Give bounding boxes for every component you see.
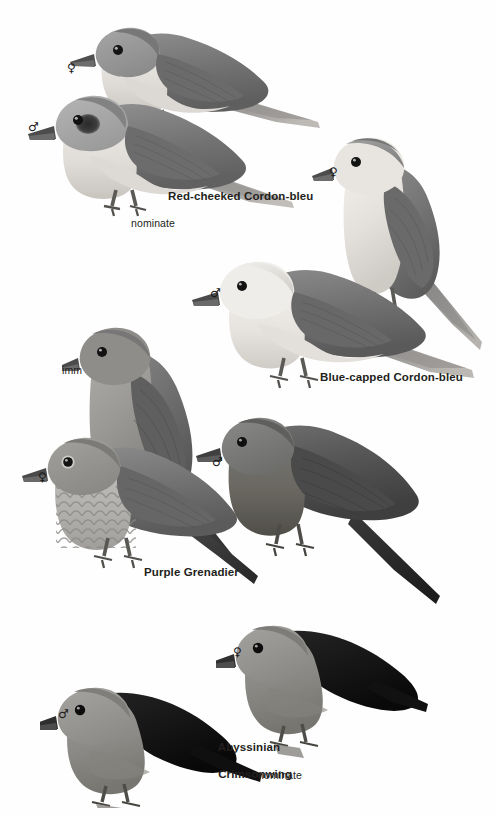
- sex-symbol-female-red-cheeked: ♀: [67, 62, 76, 74]
- subspecies-label-red-cheeked-nominate: nominate: [131, 217, 175, 229]
- sex-symbol-female-abyssinian: ♀: [233, 646, 242, 658]
- sex-symbol-male-blue-capped: ♂: [210, 287, 221, 299]
- sex-symbol-male-red-cheeked: ♂: [28, 121, 39, 133]
- sex-symbol-male-purple-grenadier: ♂: [212, 456, 223, 468]
- species-label-purple-grenadier: Purple Grenadier: [144, 566, 239, 580]
- species-label-line-1: Abyssinian: [218, 741, 280, 753]
- species-label-red-cheeked-cordon-bleu: Red-cheeked Cordon-bleu: [168, 190, 313, 204]
- sex-symbol-female-blue-capped: ♀: [329, 166, 338, 178]
- species-label-abyssinian-crimsonwing: Abyssinian Crimsonwing: [205, 727, 292, 795]
- species-label-blue-capped-cordon-bleu: Blue-capped Cordon-bleu: [320, 371, 463, 385]
- sex-symbol-female-purple-grenadier: ♀: [38, 471, 47, 483]
- subspecies-label-abyssinian-nominate: nominate: [258, 769, 302, 781]
- sex-symbol-male-abyssinian: ♂: [58, 708, 69, 720]
- age-label-purple-grenadier-imm: imm: [62, 364, 82, 376]
- field-guide-plate: ♀ ♂ ♀ ♂ ♀ ♂ ♀ ♂ Red-cheeked Cordon-bleu …: [0, 0, 496, 816]
